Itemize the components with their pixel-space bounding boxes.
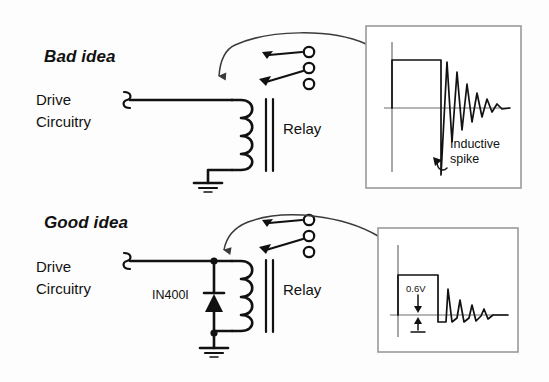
relay-coil-bad: [232, 100, 252, 170]
annotation-bad-line1: Inductive: [450, 137, 500, 151]
relay-core-bars-bad: [266, 99, 273, 171]
relay-contacts-bad: [259, 47, 314, 89]
relay-label-good: Relay: [283, 281, 322, 298]
voltage-label-good: 0.6V: [406, 283, 426, 294]
annotation-bad-line2: spike: [450, 152, 479, 166]
section-bad-idea: Bad idea Drive Circuitry: [36, 26, 521, 192]
part-label-diode-good: IN400I: [152, 288, 189, 302]
relay-terminal-2-bad: [304, 63, 314, 73]
circuit-diagram-canvas: Bad idea Drive Circuitry: [0, 0, 549, 382]
scope-frame-bad: [366, 26, 521, 188]
relay-label-bad: Relay: [283, 120, 322, 137]
relay-core-bars-good: [266, 260, 273, 332]
ground-symbol-good: [200, 348, 228, 357]
ground-symbol-bad: [194, 183, 222, 192]
drive-label-good-line1: Drive: [36, 258, 71, 275]
diode-symbol-good: [204, 293, 224, 312]
relay-terminal-2-good: [304, 231, 314, 241]
drive-label-bad-line1: Drive: [36, 91, 71, 108]
drive-label-bad-line2: Circuitry: [36, 113, 91, 130]
section-title-good: Good idea: [44, 213, 128, 232]
scope-bad: Inductive spike: [366, 26, 521, 188]
relay-terminal-1-bad: [304, 47, 314, 57]
drive-label-good-line2: Circuitry: [36, 280, 91, 297]
section-title-bad: Bad idea: [44, 47, 116, 66]
relay-terminal-3-good: [304, 247, 314, 257]
relay-terminal-3-bad: [304, 79, 314, 89]
relay-contacts-good: [259, 215, 314, 257]
scope-good: 0.6V: [378, 228, 518, 352]
circuit-figure: Bad idea Drive Circuitry: [0, 0, 549, 382]
pointer-arrow-bad: [219, 33, 366, 76]
relay-coil-good: [232, 261, 252, 331]
section-good-idea: Good idea Drive Circuitry IN400I: [36, 213, 518, 357]
wire-coil-to-ground-bad: [208, 170, 232, 183]
